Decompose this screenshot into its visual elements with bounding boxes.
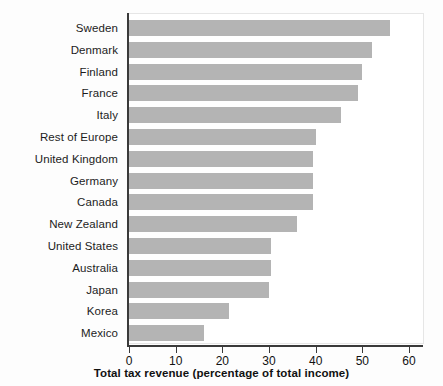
bar-category-label: Canada: [0, 191, 118, 213]
bar: [129, 238, 271, 254]
bar: [129, 64, 362, 80]
bar: [129, 20, 390, 36]
x-tick-label: 10: [156, 354, 196, 368]
bar-row: Mexico: [0, 322, 443, 344]
bar: [129, 151, 313, 167]
x-tick-mark: [316, 347, 317, 353]
bar: [129, 260, 271, 276]
bar-category-label: New Zealand: [0, 213, 118, 235]
bar-category-label: Rest of Europe: [0, 126, 118, 148]
bar-category-label: United States: [0, 235, 118, 257]
bar-category-label: Finland: [0, 61, 118, 83]
x-axis-title: Total tax revenue (percentage of total i…: [0, 367, 443, 379]
x-tick-label: 40: [296, 354, 336, 368]
bar: [129, 173, 313, 189]
bar-category-label: Sweden: [0, 17, 118, 39]
x-tick-mark: [176, 347, 177, 353]
bar: [129, 42, 372, 58]
bar-row: Korea: [0, 300, 443, 322]
x-tick-mark: [269, 347, 270, 353]
bars-layer: SwedenDenmarkFinlandFranceItalyRest of E…: [0, 0, 443, 386]
bar-category-label: Denmark: [0, 39, 118, 61]
bar-category-label: France: [0, 82, 118, 104]
bar-row: Germany: [0, 170, 443, 192]
bar: [129, 129, 316, 145]
x-tick-mark: [222, 347, 223, 353]
bar-category-label: Mexico: [0, 322, 118, 344]
bar-row: Denmark: [0, 39, 443, 61]
bar: [129, 282, 269, 298]
x-tick-mark: [129, 347, 130, 353]
bar-row: Rest of Europe: [0, 126, 443, 148]
bar-row: Australia: [0, 257, 443, 279]
bar: [129, 303, 229, 319]
x-tick-label: 50: [342, 354, 382, 368]
bar-row: New Zealand: [0, 213, 443, 235]
bar-row: France: [0, 82, 443, 104]
tax-revenue-bar-chart: SwedenDenmarkFinlandFranceItalyRest of E…: [0, 0, 443, 386]
bar-row: Sweden: [0, 17, 443, 39]
bar-category-label: Germany: [0, 170, 118, 192]
bar: [129, 107, 341, 123]
bar: [129, 325, 204, 341]
x-tick-label: 60: [389, 354, 429, 368]
bar-category-label: Italy: [0, 104, 118, 126]
bar-row: Japan: [0, 279, 443, 301]
bar-row: United Kingdom: [0, 148, 443, 170]
x-tick-mark: [409, 347, 410, 353]
x-tick-label: 30: [249, 354, 289, 368]
bar-row: United States: [0, 235, 443, 257]
bar: [129, 85, 358, 101]
bar-category-label: United Kingdom: [0, 148, 118, 170]
bar-category-label: Australia: [0, 257, 118, 279]
x-tick-label: 20: [202, 354, 242, 368]
bar-row: Italy: [0, 104, 443, 126]
bar-row: Finland: [0, 61, 443, 83]
x-tick-mark: [362, 347, 363, 353]
x-tick-label: 0: [109, 354, 149, 368]
bar: [129, 194, 313, 210]
bar-row: Canada: [0, 191, 443, 213]
bar-category-label: Korea: [0, 300, 118, 322]
bar-category-label: Japan: [0, 279, 118, 301]
bar: [129, 216, 297, 232]
